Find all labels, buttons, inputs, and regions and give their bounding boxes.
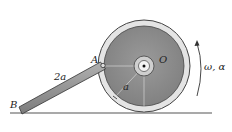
label-b: B bbox=[10, 100, 17, 110]
pin-a bbox=[101, 63, 105, 67]
wheel bbox=[98, 20, 190, 112]
label-angular: ω, α bbox=[204, 62, 225, 72]
label-rod-length: 2a bbox=[54, 72, 66, 82]
rotation-arrow-icon bbox=[195, 40, 202, 96]
label-o: O bbox=[159, 55, 167, 65]
mechanism-diagram bbox=[0, 0, 232, 132]
rod-ab bbox=[19, 62, 106, 114]
label-radius: a bbox=[123, 82, 129, 92]
pin-o bbox=[143, 65, 146, 68]
label-a: A bbox=[91, 55, 98, 65]
